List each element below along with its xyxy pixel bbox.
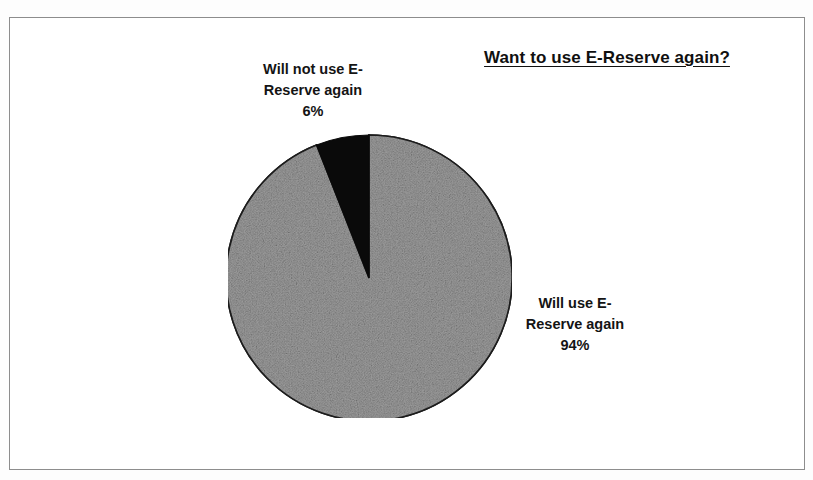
chart-title: Want to use E-Reserve again? bbox=[452, 48, 762, 68]
pie-label-will-use: Will use E- Reserve again 94% bbox=[505, 293, 645, 356]
pie-label-will-not-use: Will not use E- Reserve again 6% bbox=[252, 59, 374, 122]
pie-slice-will-use bbox=[228, 130, 512, 418]
pie-chart-svg bbox=[228, 130, 512, 418]
pie-chart bbox=[228, 130, 512, 418]
